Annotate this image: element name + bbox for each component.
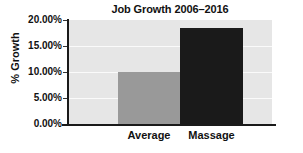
plot-area: [68, 20, 272, 124]
x-category-label-massage: Massage: [180, 129, 243, 141]
y-tick-label-15: 15.00%: [16, 41, 62, 51]
y-tick-label-5: 5.00%: [16, 93, 62, 103]
y-tick-label-20: 20.00%: [16, 15, 62, 25]
y-tick-label-0: 0.00%: [16, 119, 62, 129]
bar-massage: [180, 28, 243, 124]
x-category-label-average: Average: [118, 129, 180, 141]
y-tick-label-10: 10.00%: [16, 67, 62, 77]
chart-title: Job Growth 2006–2016: [68, 3, 272, 15]
x-axis-category-labels: Average Massage: [68, 129, 272, 147]
y-axis-line: [67, 19, 69, 125]
chart-container: Job Growth 2006–2016 % Growth 20.00% 15.…: [0, 0, 303, 153]
x-axis-line: [62, 124, 276, 126]
y-axis-tick-labels: 20.00% 15.00% 10.00% 5.00% 0.00%: [14, 0, 62, 153]
bar-average: [118, 72, 180, 124]
